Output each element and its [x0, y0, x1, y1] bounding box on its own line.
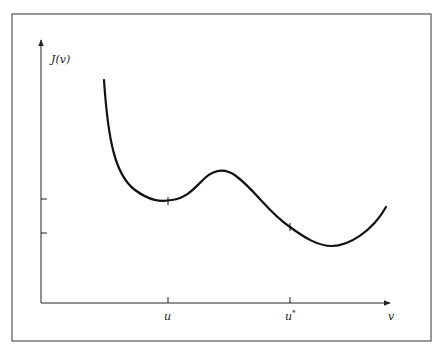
figure-frame — [12, 14, 431, 341]
x-tick-label-u: u — [164, 310, 171, 323]
x-axis-label: v — [388, 310, 395, 323]
function-curve — [104, 80, 386, 246]
x-tick-label-u-star: u* — [285, 309, 296, 323]
y-axis-label: J(v) — [49, 53, 70, 66]
figure: J(v) u u* v — [0, 0, 442, 351]
